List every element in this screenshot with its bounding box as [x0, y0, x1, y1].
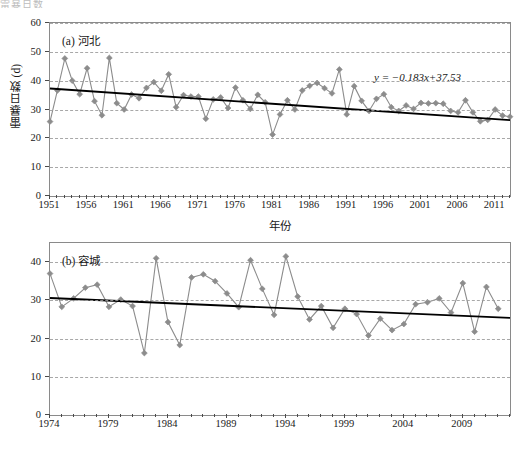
y-axis-tick-label: 30 — [13, 294, 41, 305]
data-point-marker — [200, 271, 206, 277]
data-point-marker — [141, 350, 147, 356]
x-axis-tick-mark-minor — [361, 195, 362, 198]
data-point-marker — [189, 275, 195, 281]
x-axis-tick-mark-minor — [108, 195, 109, 198]
data-point-marker — [295, 294, 301, 300]
y-axis-tick-label: 20 — [13, 132, 41, 143]
x-axis-tick-mark-minor — [450, 195, 451, 198]
x-axis-tick-mark-minor — [168, 195, 169, 198]
x-axis-tick-mark-minor — [301, 195, 302, 198]
data-point-marker — [507, 114, 513, 120]
x-axis-tick-mark-minor — [472, 195, 473, 198]
x-axis-tick-label: 2009 — [442, 418, 482, 429]
x-axis-tick-mark-minor — [375, 195, 376, 198]
x-axis-tick-mark-minor — [509, 414, 510, 417]
y-axis-tick-mark — [45, 109, 49, 110]
y-axis-tick-label: 30 — [13, 103, 41, 114]
x-axis-tick-label: 1976 — [214, 199, 254, 210]
x-axis-tick-mark-minor — [479, 195, 480, 198]
y-axis-tick-label: 20 — [13, 332, 41, 343]
x-axis-tick-label: 1966 — [140, 199, 180, 210]
x-axis-tick-mark-minor — [502, 195, 503, 198]
cropped-header-text: 雷暴日数 — [0, 0, 180, 8]
x-axis-tick-label: 1971 — [177, 199, 217, 210]
x-axis-tick-mark-minor — [391, 414, 392, 417]
x-axis-tick-label: 1984 — [147, 418, 187, 429]
data-point-marker — [351, 83, 357, 89]
x-axis-tick-mark-minor — [405, 195, 406, 198]
data-point-marker — [92, 98, 98, 104]
y-axis-tick-label: 50 — [13, 45, 41, 56]
x-axis-tick-mark-minor — [64, 195, 65, 198]
x-axis-tick-mark-minor — [96, 414, 97, 417]
x-axis-tick-mark-minor — [353, 195, 354, 198]
data-point-marker — [413, 301, 419, 307]
x-axis-tick-label: 1951 — [29, 199, 69, 210]
data-point-marker — [99, 112, 105, 118]
plot-area-b — [49, 242, 511, 416]
y-axis-tick-mark — [45, 338, 49, 339]
gridline — [50, 262, 510, 263]
x-axis-tick-label: 1974 — [29, 418, 69, 429]
data-point-marker — [299, 88, 305, 94]
y-axis-tick-label: 10 — [13, 370, 41, 381]
x-axis-tick-label: 2006 — [437, 199, 477, 210]
x-axis-tick-mark-minor — [338, 195, 339, 198]
data-point-marker — [401, 321, 407, 327]
data-point-marker — [425, 101, 431, 107]
x-axis-tick-mark-minor — [249, 195, 250, 198]
x-axis-tick-mark-minor — [227, 195, 228, 198]
x-axis-tick-mark-minor — [435, 195, 436, 198]
data-point-marker — [307, 83, 313, 89]
data-point-marker — [330, 325, 336, 331]
y-axis-tick-mark — [45, 80, 49, 81]
x-axis-tick-mark-minor — [487, 195, 488, 198]
x-axis-tick-mark-minor — [250, 414, 251, 417]
x-axis-tick-mark-minor — [73, 414, 74, 417]
data-point-marker — [177, 342, 183, 348]
x-axis-tick-mark-minor — [367, 414, 368, 417]
x-axis-tick-label: 2004 — [383, 418, 423, 429]
y-axis-tick-mark — [45, 51, 49, 52]
x-axis-tick-mark-minor — [438, 414, 439, 417]
trend-equation-a: y = −0.183x+37.53 — [374, 71, 461, 83]
x-axis-tick-mark-minor — [94, 195, 95, 198]
y-axis-tick-mark — [45, 261, 49, 262]
data-point-marker — [62, 56, 68, 62]
x-axis-tick-mark-minor — [220, 195, 221, 198]
chart-panel-a: 雷暴日数 (d) (a) 河北 y = −0.183x+37.53 年份 010… — [0, 14, 518, 214]
gridline — [50, 110, 510, 111]
data-point-marker — [106, 304, 112, 310]
data-point-marker — [283, 253, 289, 259]
x-axis-tick-mark-minor — [205, 195, 206, 198]
x-axis-tick-mark-minor — [279, 195, 280, 198]
y-axis-tick-mark — [45, 166, 49, 167]
x-axis-tick-label: 2011 — [474, 199, 514, 210]
data-point-marker — [270, 132, 276, 138]
x-axis-tick-mark-minor — [485, 414, 486, 417]
data-point-marker — [233, 85, 239, 91]
x-axis-tick-mark-minor — [390, 195, 391, 198]
gridline — [50, 52, 510, 53]
x-axis-tick-mark-minor — [101, 195, 102, 198]
data-point-marker — [77, 91, 83, 97]
x-axis-tick-mark-minor — [61, 414, 62, 417]
gridline — [50, 300, 510, 301]
data-point-marker — [271, 312, 277, 318]
x-axis-tick-mark-minor — [415, 414, 416, 417]
x-axis-tick-mark-minor — [509, 195, 510, 198]
x-axis-tick-mark-minor — [56, 195, 57, 198]
x-axis-tick-mark-minor — [153, 195, 154, 198]
x-axis-tick-mark-minor — [427, 195, 428, 198]
y-axis-tick-label: 40 — [13, 256, 41, 267]
x-axis-tick-label: 2001 — [400, 199, 440, 210]
data-point-marker — [166, 71, 172, 77]
x-axis-tick-mark-minor — [191, 414, 192, 417]
x-axis-tick-label: 1986 — [289, 199, 329, 210]
x-axis-tick-mark-minor — [316, 195, 317, 198]
data-point-marker — [460, 280, 466, 286]
data-point-marker — [259, 286, 265, 292]
data-point-marker — [463, 97, 469, 103]
x-axis-tick-mark-minor — [442, 195, 443, 198]
x-axis-tick-mark-minor — [71, 195, 72, 198]
